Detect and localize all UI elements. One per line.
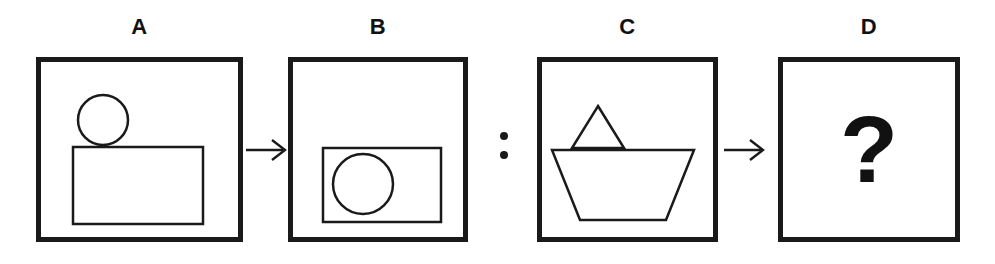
panel-content-d: ? bbox=[783, 62, 955, 237]
panel-shapes-c bbox=[542, 62, 713, 237]
panel-box-a[interactable] bbox=[36, 57, 243, 242]
panel-label-d: D bbox=[778, 14, 960, 40]
panel-group-b: B bbox=[288, 0, 468, 264]
shape-triangle bbox=[572, 106, 624, 148]
panel-box-d[interactable]: ? bbox=[778, 57, 960, 242]
panel-content-c bbox=[542, 62, 713, 237]
colon-dot-lower bbox=[500, 151, 508, 159]
shape-rectangle bbox=[323, 148, 441, 222]
panel-group-a: A bbox=[36, 0, 243, 264]
arrow-icon-arrow-a-to-b bbox=[245, 133, 291, 167]
panel-group-c: C bbox=[537, 0, 718, 264]
analogy-puzzle: ABCD? bbox=[0, 0, 995, 264]
shape-trapezoid bbox=[552, 150, 694, 220]
panel-label-a: A bbox=[36, 14, 243, 40]
panel-content-b bbox=[293, 62, 463, 237]
panel-shapes-a bbox=[41, 62, 238, 237]
arrow-icon-arrow-c-to-d bbox=[723, 133, 769, 167]
panel-label-b: B bbox=[288, 14, 468, 40]
panel-group-d: D? bbox=[778, 0, 960, 264]
panel-box-c[interactable] bbox=[537, 57, 718, 242]
colon-separator-colon-b-to-c bbox=[497, 128, 513, 164]
shape-rectangle bbox=[73, 147, 203, 224]
panel-box-b[interactable] bbox=[288, 57, 468, 242]
shape-question-mark: ? bbox=[783, 62, 955, 237]
arrow-glyph bbox=[723, 133, 769, 167]
shape-circle bbox=[78, 95, 128, 145]
panel-shapes-b bbox=[293, 62, 463, 237]
arrow-glyph bbox=[245, 133, 291, 167]
panel-content-a bbox=[41, 62, 238, 237]
colon-dot-upper bbox=[500, 132, 508, 140]
shape-circle bbox=[333, 154, 393, 214]
panel-label-c: C bbox=[537, 14, 718, 40]
